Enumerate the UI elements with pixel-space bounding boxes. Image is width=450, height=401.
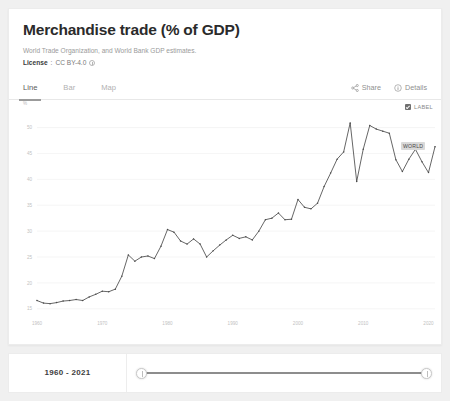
data-point[interactable] xyxy=(141,256,143,258)
data-point[interactable] xyxy=(291,218,293,220)
data-point[interactable] xyxy=(408,158,410,160)
data-point[interactable] xyxy=(108,291,110,293)
data-point[interactable] xyxy=(271,217,273,219)
data-point[interactable] xyxy=(265,219,267,221)
license-value[interactable]: CC BY-4.0 xyxy=(55,58,86,67)
data-point[interactable] xyxy=(382,130,384,132)
data-point[interactable] xyxy=(219,244,221,246)
range-slider[interactable] xyxy=(127,354,441,392)
data-point[interactable] xyxy=(43,302,45,304)
data-point[interactable] xyxy=(245,236,247,238)
data-point[interactable] xyxy=(389,132,391,134)
data-point[interactable] xyxy=(193,238,195,240)
data-point[interactable] xyxy=(128,254,130,256)
chart-area: % LABEL 1520253035404550 196019701980199… xyxy=(9,100,441,343)
data-point[interactable] xyxy=(278,212,280,214)
data-point[interactable] xyxy=(330,172,332,174)
label-toggle-text: LABEL xyxy=(414,104,433,110)
data-point[interactable] xyxy=(395,159,397,161)
data-point[interactable] xyxy=(239,238,241,240)
data-point[interactable] xyxy=(88,296,90,298)
data-point[interactable] xyxy=(421,161,423,163)
share-label: Share xyxy=(362,83,381,92)
y-axis-ticks: 1520253035404550 xyxy=(27,125,33,311)
data-point[interactable] xyxy=(56,302,58,304)
data-point[interactable] xyxy=(317,202,319,204)
data-point[interactable] xyxy=(258,230,260,232)
x-tick-label: 2010 xyxy=(358,321,369,326)
tab-map[interactable]: Map xyxy=(101,76,130,100)
data-point[interactable] xyxy=(402,171,404,173)
x-tick-label: 1960 xyxy=(32,321,43,326)
x-axis-ticks: 1960197019801990200020102020 xyxy=(32,321,434,326)
data-point[interactable] xyxy=(173,231,175,233)
slider-track[interactable] xyxy=(145,372,423,374)
slider-handle-start[interactable] xyxy=(136,368,147,379)
y-tick-label: 40 xyxy=(27,177,33,182)
data-point[interactable] xyxy=(434,146,436,148)
checkbox-icon[interactable] xyxy=(405,104,411,110)
data-point[interactable] xyxy=(82,300,84,302)
range-text: 1960 - 2021 xyxy=(9,354,127,392)
data-point[interactable] xyxy=(75,299,77,301)
label-toggle[interactable]: LABEL xyxy=(405,104,433,110)
tabs-group: Line Bar Map xyxy=(23,76,142,100)
data-point[interactable] xyxy=(428,172,430,174)
data-line-world xyxy=(37,123,435,304)
data-point[interactable] xyxy=(186,243,188,245)
data-point[interactable] xyxy=(115,288,117,290)
y-tick-label: 50 xyxy=(27,125,33,130)
data-point[interactable] xyxy=(154,258,156,260)
info-icon xyxy=(394,84,402,92)
data-point[interactable] xyxy=(160,245,162,247)
data-point[interactable] xyxy=(36,300,38,302)
data-point[interactable] xyxy=(95,294,97,296)
data-point[interactable] xyxy=(102,290,104,292)
tab-bar-chart[interactable]: Bar xyxy=(63,76,89,100)
data-point[interactable] xyxy=(199,243,201,245)
data-point[interactable] xyxy=(323,186,325,188)
data-point[interactable] xyxy=(343,151,345,153)
data-point[interactable] xyxy=(362,149,364,151)
y-tick-label: 30 xyxy=(27,229,33,234)
data-point[interactable] xyxy=(336,158,338,160)
data-point[interactable] xyxy=(284,219,286,221)
license-label: License xyxy=(23,58,48,67)
toolbar-actions: Share Details xyxy=(351,83,427,92)
tab-line[interactable]: Line xyxy=(23,76,51,100)
data-point[interactable] xyxy=(206,256,208,258)
data-point[interactable] xyxy=(310,208,312,210)
license-info-icon[interactable] xyxy=(89,60,95,66)
data-point[interactable] xyxy=(134,260,136,262)
share-button[interactable]: Share xyxy=(351,83,381,92)
data-point[interactable] xyxy=(212,250,214,252)
x-tick-label: 2020 xyxy=(423,321,434,326)
data-point[interactable] xyxy=(349,122,351,124)
data-point[interactable] xyxy=(49,303,51,305)
gridlines xyxy=(37,128,435,309)
data-point[interactable] xyxy=(356,181,358,183)
license-separator: : xyxy=(51,58,53,67)
data-point[interactable] xyxy=(167,229,169,231)
y-tick-label: 20 xyxy=(27,281,33,286)
data-point[interactable] xyxy=(304,207,306,209)
data-point[interactable] xyxy=(252,239,254,241)
data-point[interactable] xyxy=(376,128,378,130)
license-row: License : CC BY-4.0 xyxy=(23,58,427,67)
data-point[interactable] xyxy=(147,255,149,256)
details-button[interactable]: Details xyxy=(394,83,427,92)
tab-bar: Line Bar Map Share xyxy=(9,76,441,100)
data-point[interactable] xyxy=(369,125,371,127)
slider-handle-end[interactable] xyxy=(421,368,432,379)
data-point[interactable] xyxy=(69,300,71,302)
series-label-world[interactable]: WORLD xyxy=(401,142,425,150)
data-source-text: World Trade Organization, and World Bank… xyxy=(23,46,427,55)
data-point[interactable] xyxy=(225,239,227,241)
data-point[interactable] xyxy=(62,300,64,302)
data-point[interactable] xyxy=(121,275,123,277)
data-point[interactable] xyxy=(180,240,182,242)
data-point[interactable] xyxy=(232,235,234,237)
details-label: Details xyxy=(405,83,427,92)
data-point[interactable] xyxy=(297,199,299,201)
y-tick-label: 45 xyxy=(27,151,33,156)
